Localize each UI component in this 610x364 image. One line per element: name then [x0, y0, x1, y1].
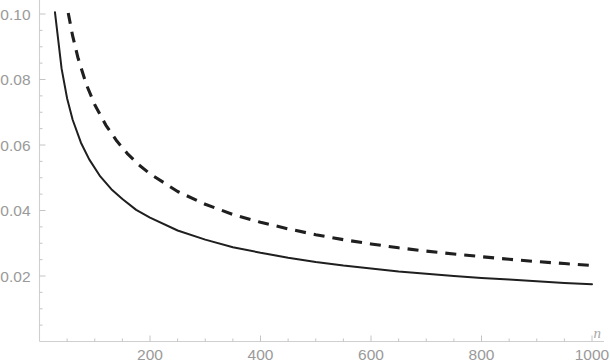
x-axis: [40, 336, 605, 342]
x-tick-label: 1000: [575, 346, 610, 363]
solid-curve: [55, 12, 592, 284]
x-tick-label: 400: [248, 346, 274, 363]
x-tick-label: 200: [137, 346, 163, 363]
y-tick-label: 0.10: [0, 6, 31, 23]
x-axis-name: n: [594, 325, 602, 341]
y-tick-label: 0.06: [0, 137, 30, 154]
y-tick-label: 0.04: [0, 202, 31, 219]
y-tick-labels: 0.020.040.060.080.10: [0, 6, 31, 285]
y-axis: [40, 0, 46, 342]
chart-series-group: [55, 12, 592, 284]
x-tick-label: 600: [358, 346, 384, 363]
x-tick-labels: 2004006008001000: [137, 346, 610, 363]
line-chart-plot: 2004006008001000 0.020.040.060.080.10 n: [0, 0, 610, 364]
x-axis-name-label: n: [594, 325, 602, 341]
y-tick-label: 0.08: [0, 71, 30, 88]
y-tick-label: 0.02: [0, 268, 30, 285]
dashed-curve: [68, 13, 592, 265]
x-tick-label: 800: [469, 346, 495, 363]
chart-container: 2004006008001000 0.020.040.060.080.10 n: [0, 0, 610, 364]
